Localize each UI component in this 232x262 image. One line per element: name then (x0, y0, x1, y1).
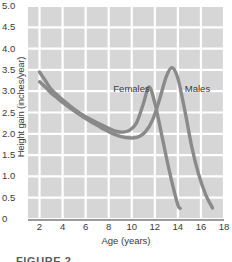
x-tick-label: 16 (190, 221, 212, 232)
series-label-males: Males (185, 84, 210, 94)
data-curves (28, 6, 224, 219)
x-tick-label: 8 (98, 221, 120, 232)
plot-area (28, 6, 224, 219)
x-tick-label: 10 (121, 221, 143, 232)
x-tick-label: 14 (167, 221, 189, 232)
x-tick-label: 6 (75, 221, 97, 232)
x-tick-label: 4 (52, 221, 74, 232)
y-tick-label: 2.5 (0, 108, 24, 118)
y-tick-label: 2.0 (0, 129, 24, 139)
y-tick-label: 1.0 (0, 171, 24, 181)
series-label-females: Females (113, 84, 149, 94)
y-tick-label: 4.5 (0, 22, 24, 32)
y-tick-label: 3.0 (0, 86, 24, 96)
y-tick-label: 1.5 (0, 150, 24, 160)
figure-container: Height gain (inches/year) 00.51.01.52.02… (0, 0, 232, 262)
y-tick-label: 4.0 (0, 44, 24, 54)
figure-caption: FIGURE 2 (16, 255, 72, 262)
x-tick-label: 2 (29, 221, 51, 232)
x-axis-title: Age (years) (28, 235, 224, 246)
y-tick-label: 3.5 (0, 65, 24, 75)
x-tick-label: 18 (213, 221, 232, 232)
y-tick-label: 0 (0, 214, 24, 224)
y-tick-label: 0.5 (0, 193, 24, 203)
y-tick-label: 5.0 (0, 1, 24, 11)
x-tick-label: 12 (144, 221, 166, 232)
